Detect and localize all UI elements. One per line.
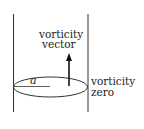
radius-label: a: [30, 74, 37, 87]
top-label-line2: vector: [41, 38, 77, 50]
cross-section-ellipse: [14, 77, 88, 97]
right-label-line2: zero: [91, 86, 114, 98]
vortex-tube-diagram: a vorticity vector vorticity zero: [0, 0, 144, 129]
vorticity-arrow-head-icon: [66, 53, 72, 61]
